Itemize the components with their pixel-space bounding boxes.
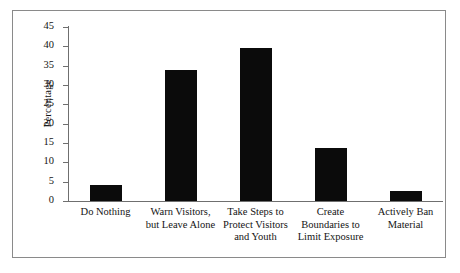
x-axis-category-label-line: Protect Visitors xyxy=(214,219,297,232)
x-axis-category-label: Do Nothing xyxy=(64,206,147,219)
y-axis-tick-label: 5 xyxy=(49,175,54,186)
x-axis-category-label-line: but Leave Alone xyxy=(139,219,222,232)
y-axis-tick-label: 15 xyxy=(44,136,55,147)
y-axis-tick-mark xyxy=(63,201,68,202)
y-axis-tick-label: 35 xyxy=(44,59,55,70)
y-axis-tick-mark xyxy=(63,46,68,47)
x-axis-line xyxy=(68,201,443,202)
chart-figure: Percentage 051015202530354045 Do Nothing… xyxy=(0,0,460,273)
y-axis-tick-mark xyxy=(63,27,68,28)
y-axis-tick-label: 25 xyxy=(44,97,55,108)
x-axis-category-label-line: Limit Exposure xyxy=(289,231,372,244)
x-axis-category-label-line: Actively Ban xyxy=(364,206,447,219)
bar xyxy=(315,148,347,201)
y-axis-tick-label: 10 xyxy=(44,155,55,166)
bar xyxy=(165,70,197,201)
y-axis-tick-mark xyxy=(63,162,68,163)
bar xyxy=(390,191,422,201)
y-axis-line xyxy=(68,26,69,202)
x-axis-category-label-line: Do Nothing xyxy=(64,206,147,219)
y-axis-tick-label: 40 xyxy=(44,39,55,50)
y-axis-tick-mark xyxy=(63,143,68,144)
x-axis-category-label: Actively BanMaterial xyxy=(364,206,447,231)
x-axis-category-label-line: and Youth xyxy=(214,231,297,244)
y-axis-tick-label: 45 xyxy=(44,20,55,31)
y-axis-tick-mark xyxy=(63,124,68,125)
x-axis-category-label: CreateBoundaries toLimit Exposure xyxy=(289,206,372,244)
x-axis-category-label: Warn Visitors,but Leave Alone xyxy=(139,206,222,231)
y-axis-tick-mark xyxy=(63,66,68,67)
y-axis-tick-mark xyxy=(63,85,68,86)
bar xyxy=(240,48,272,201)
x-axis-category-label-line: Create xyxy=(289,206,372,219)
bar xyxy=(90,185,122,201)
y-axis-tick-mark xyxy=(63,182,68,183)
x-axis-category-label-line: Boundaries to xyxy=(289,219,372,232)
x-axis-category-label-line: Material xyxy=(364,219,447,232)
y-axis-tick-label: 30 xyxy=(44,78,55,89)
x-axis-category-label-line: Warn Visitors, xyxy=(139,206,222,219)
y-axis-tick-label: 20 xyxy=(44,117,55,128)
y-axis-tick-mark xyxy=(63,104,68,105)
y-axis-tick-label: 0 xyxy=(49,194,54,205)
x-axis-category-label-line: Take Steps to xyxy=(214,206,297,219)
x-axis-category-label: Take Steps toProtect Visitorsand Youth xyxy=(214,206,297,244)
